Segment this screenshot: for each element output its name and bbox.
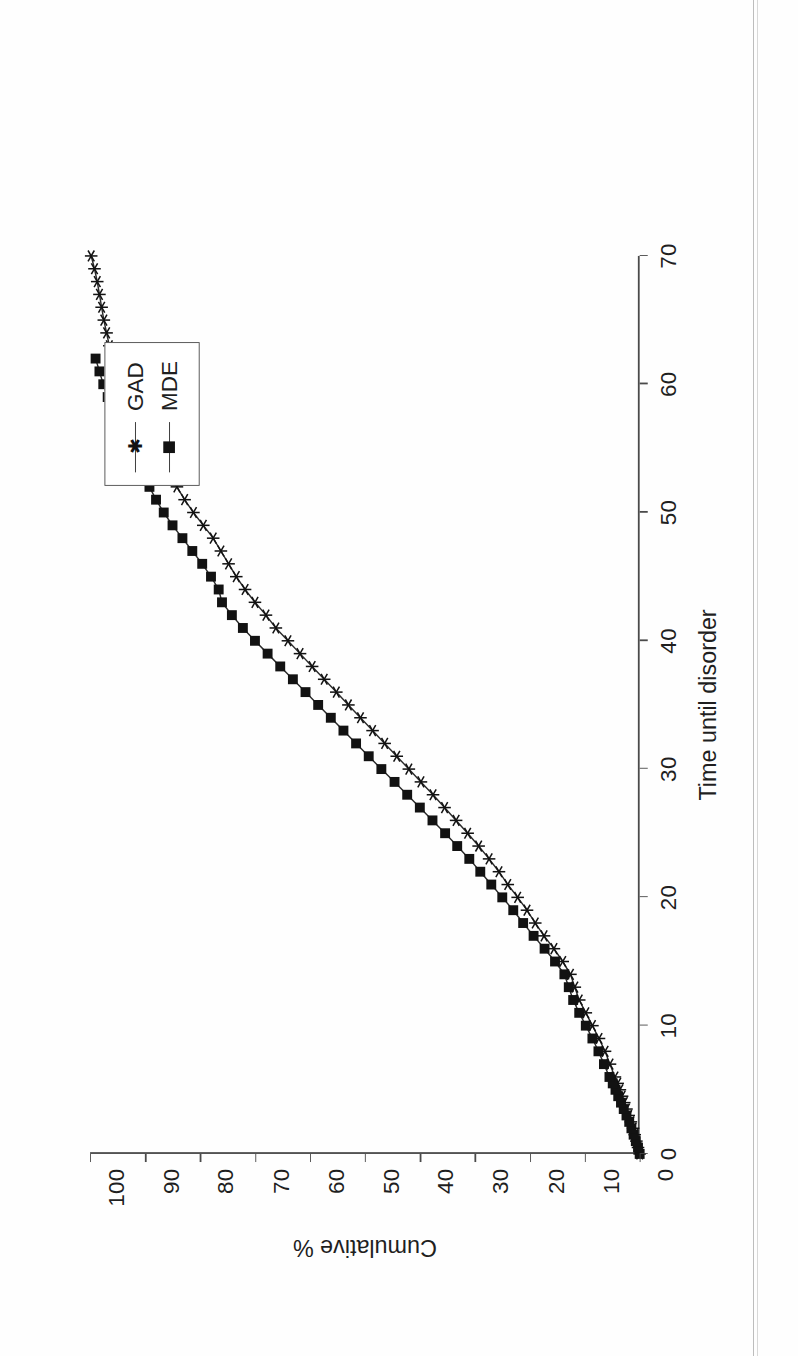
y-axis-tick-label: 70 [268,1168,294,1194]
x-axis-tick [640,255,648,256]
x-axis-tick [640,896,648,897]
star-marker-icon: ✱ [127,439,142,454]
plot-area: 010203040506070 0102030405060708090100 T… [90,256,640,1154]
data-point-square [227,610,237,620]
data-point-square [177,533,187,543]
y-axis-tick [365,1154,366,1162]
data-point-square [197,559,207,569]
data-point-square [559,969,569,979]
data-point-square [275,662,285,672]
filled-square-marker-icon [163,441,175,453]
data-point-square [214,585,224,595]
data-point-square [94,366,104,376]
data-point-square [351,738,361,748]
data-point-square [486,880,496,890]
legend-label-mde: MDE [156,361,182,411]
y-axis-tick [530,1154,531,1162]
data-point-square [464,854,474,864]
y-axis-tick-label: 50 [378,1168,404,1194]
data-point-square [452,841,462,851]
x-axis-tick [640,640,648,641]
x-axis-tick [640,383,648,384]
data-point-square [168,520,178,530]
data-point-square [508,905,518,915]
y-axis-tick [585,1154,586,1162]
y-axis-tick-label: 90 [158,1168,184,1194]
x-axis-tick [640,511,648,512]
chart-stage: 010203040506070 0102030405060708090100 T… [58,94,740,1261]
data-point-square [518,918,528,928]
y-axis-tick [640,1154,641,1162]
legend-item-gad: ✱ GAD [118,361,152,472]
data-point-square [587,1034,597,1044]
x-axis-tick-label: 30 [655,756,681,782]
data-point-square [313,700,323,710]
y-axis-title: Cumulative % [293,1233,437,1261]
data-point-square [151,495,161,505]
data-point-square [250,636,260,646]
y-axis-tick [255,1154,256,1162]
data-point-square [339,726,349,736]
scan-page-edge-line [753,0,754,1356]
y-axis-tick [310,1154,311,1162]
y-axis-tick [475,1154,476,1162]
y-axis-tick-label: 60 [323,1168,349,1194]
x-axis-tick-label: 10 [655,1013,681,1039]
x-axis-title: Time until disorder [694,609,722,800]
data-point-square [599,1059,609,1069]
data-point-square [497,892,507,902]
data-point-square [217,597,227,607]
y-axis-tick-label: 40 [433,1168,459,1194]
data-point-square [428,815,438,825]
scan-page-edge-line-secondary [757,0,758,1356]
legend-item-mde: MDE [152,361,186,472]
data-point-square [326,713,336,723]
data-point-square [376,764,386,774]
legend-swatch-mde [159,422,179,472]
figure-page: 010203040506070 0102030405060708090100 T… [0,0,798,1356]
data-point-square [594,1046,604,1056]
x-axis-tick-label: 0 [655,1148,681,1161]
y-axis-tick [145,1154,146,1162]
x-axis-tick-label: 60 [655,371,681,397]
data-point-square [263,649,273,659]
data-point-square [540,944,550,954]
data-point-square [564,982,574,992]
y-axis-tick-label: 0 [653,1168,679,1181]
legend: ✱ GAD MDE [104,342,199,485]
y-axis-tick-label: 10 [598,1168,624,1194]
y-axis-tick-label: 30 [488,1168,514,1194]
x-axis-tick-label: 20 [655,885,681,911]
x-axis-tick-label: 70 [655,243,681,269]
y-axis-tick-label: 80 [213,1168,239,1194]
legend-swatch-gad: ✱ [125,422,145,472]
y-axis-tick [420,1154,421,1162]
data-point-square [187,546,197,556]
data-point-square [581,1021,591,1031]
data-point-square [301,687,311,697]
data-point-square [159,508,169,518]
x-axis-tick-label: 50 [655,500,681,526]
x-axis-tick-label: 40 [655,628,681,654]
data-point-square [475,867,485,877]
data-point-square [568,995,578,1005]
data-point-square [415,803,425,813]
data-point-square [550,957,560,967]
data-point-square [238,623,248,633]
x-axis-tick [640,1024,648,1025]
data-point-square [364,751,374,761]
data-point-square [206,572,216,582]
y-axis-tick [200,1154,201,1162]
data-point-square [288,674,298,684]
y-axis-tick-label: 100 [103,1168,129,1207]
data-point-square [574,1008,584,1018]
y-axis-tick-label: 20 [543,1168,569,1194]
data-point-square [402,790,412,800]
x-axis-tick [640,768,648,769]
data-point-square [604,1072,614,1082]
data-point-square [390,777,400,787]
y-axis-tick [90,1154,91,1162]
data-point-square [529,931,539,941]
data-point-square [440,828,450,838]
data-point-square [91,354,101,364]
